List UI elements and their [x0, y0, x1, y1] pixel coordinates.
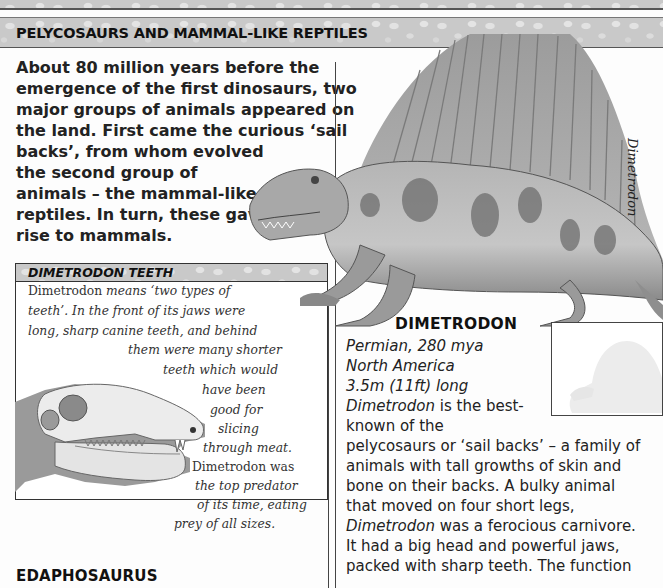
teeth-text-line: slicing [218, 422, 259, 436]
dimetrodon-body-line: that moved on four short legs, [346, 497, 575, 516]
teeth-text-line: through meat. [203, 441, 292, 455]
top-gap-band [0, 10, 663, 18]
teeth-text-line: of its time, eating [197, 498, 307, 512]
teeth-text-line: good for [210, 403, 262, 417]
dimetrodon-location: North America [346, 357, 455, 376]
column-divider-inner [328, 305, 329, 588]
teeth-text-line: prey of all sizes. [174, 517, 275, 531]
dimetrodon-length: 3.5m (11ft) long [346, 377, 468, 396]
dimetrodon-body-line: packed with sharp teeth. The function [346, 557, 631, 576]
dimetrodon-body-line: animals with tall growths of skin and [346, 457, 621, 476]
top-texture-strip [0, 0, 663, 10]
dimetrodon-skull-illustration [15, 382, 215, 500]
teeth-text-line: long, sharp canine teeth, and behind [28, 324, 257, 338]
teeth-text-line: have been [202, 383, 266, 397]
dimetrodon-body-line: pelycosaurs or ‘sail backs’ – a family o… [346, 437, 640, 456]
dimetrodon-heading: DIMETRODON [395, 315, 517, 333]
size-comparison-silhouette [552, 323, 662, 415]
dimetrodon-illustration [240, 30, 663, 330]
teeth-text-line: teeth’. In the front of its jaws were [28, 304, 245, 318]
dimetrodon-body-line: known of the [346, 417, 444, 436]
dimetrodon-body-line: It had a big head and powerful jaws, [346, 537, 620, 556]
dimetrodon-body-line: Dimetrodon is the best- [346, 397, 524, 416]
teeth-text-line: Dimetrodon was [192, 460, 294, 474]
size-comparison-box [551, 322, 663, 416]
edaphosaurus-heading: EDAPHOSAURUS [16, 567, 158, 585]
teeth-text-line: Dimetrodon means ‘two types of [28, 284, 230, 298]
dimetrodon-body-line: Dimetrodon was a ferocious carnivore. [346, 517, 636, 536]
teeth-text-line: the top predator [195, 479, 298, 493]
teeth-text-line: teeth which would [163, 363, 278, 377]
teeth-box-title: DIMETRODON TEETH [28, 265, 173, 280]
dimetrodon-side-caption: Dimetrodon [625, 138, 640, 216]
dimetrodon-body-line: bone on their backs. A bulky animal [346, 477, 615, 496]
dimetrodon-period: Permian, 280 mya [346, 337, 484, 356]
teeth-text-line: them were many shorter [128, 343, 282, 357]
